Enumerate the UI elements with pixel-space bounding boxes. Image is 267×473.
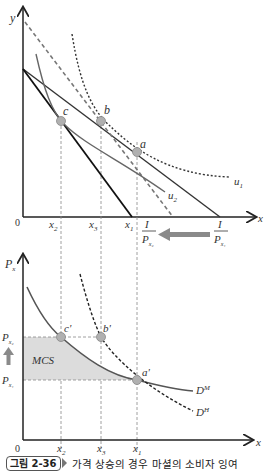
point-a-prime (133, 376, 142, 385)
tick-x1-top: x1 (124, 218, 133, 233)
label-px2: Px₂ (1, 331, 13, 345)
svg-text:I: I (144, 218, 150, 230)
svg-text:Px₁: Px₁ (213, 233, 225, 247)
svg-text:Px₂: Px₂ (141, 233, 153, 247)
intercept-old: I Px₁ (213, 218, 228, 247)
tick-x3-top: x3 (88, 218, 98, 233)
tick-x2-top: x2 (48, 218, 58, 233)
origin-bottom: 0 (15, 443, 20, 454)
label-dm: DM (195, 384, 211, 396)
budget-line-original (23, 69, 220, 217)
figure-number-badge: 그림 2-36 (6, 456, 61, 471)
caption-pointer-icon (62, 458, 67, 468)
label-a-prime: a' (142, 366, 151, 378)
bottom-panel: Px x 0 Px₂ Px₁ MCS c' b' a' DM DH x2 x3 … (1, 255, 261, 457)
left-arrow-icon (158, 228, 210, 241)
y-axis-label-top: y (9, 11, 16, 25)
indifference-curve-u1 (72, 34, 230, 177)
origin-top: 0 (15, 217, 20, 228)
svg-text:I: I (217, 218, 223, 230)
figure-caption: 그림 2-36 가격 상승의 경우 마셜의 소비자 잉여 (6, 454, 238, 472)
y-axis-label-bottom: Px (4, 257, 16, 273)
caption-text: 가격 상승의 경우 마셜의 소비자 잉여 (72, 456, 239, 471)
up-arrow-icon (3, 347, 14, 365)
label-px1: Px₁ (1, 374, 13, 388)
label-u2: u2 (168, 189, 178, 204)
diagram-canvas: y x 0 c b a u1 u2 x2 x3 x1 I Px₂ I Px₁ (0, 0, 267, 473)
label-b: b (104, 103, 110, 117)
point-b (97, 117, 106, 126)
label-dh: DH (195, 406, 210, 418)
x-axis-label-bottom: x (255, 436, 261, 448)
intercept-new: I Px₂ (141, 218, 156, 247)
demand-curve-hicksian (80, 274, 193, 411)
label-a: a (140, 137, 146, 151)
label-u1: u1 (234, 175, 243, 190)
label-c-prime: c' (64, 322, 72, 334)
label-mcs: MCS (31, 354, 55, 366)
label-b-prime: b' (103, 322, 112, 334)
x-axis-label-top: x (257, 212, 263, 224)
label-c: c (63, 104, 69, 118)
